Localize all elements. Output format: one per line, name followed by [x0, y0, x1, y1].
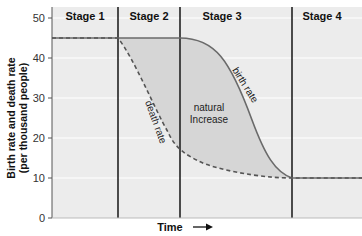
demographic-transition-chart: 50 40 30 20 10 0 Birth rate and death ra… — [0, 0, 362, 236]
y-axis-label-line1: Birth rate and death rate — [5, 57, 17, 179]
increase-label: Increase — [190, 114, 229, 125]
ytick-40: 40 — [33, 52, 45, 64]
y-axis-label: Birth rate and death rate (per thousand … — [5, 57, 29, 179]
ytick-0: 0 — [39, 212, 45, 224]
arrow-right-icon — [193, 224, 213, 231]
y-ticks — [48, 18, 52, 218]
ytick-10: 10 — [33, 172, 45, 184]
natural-label: natural — [194, 102, 225, 113]
stage-1-label: Stage 1 — [65, 10, 104, 22]
ytick-20: 20 — [33, 132, 45, 144]
x-axis-label: Time — [157, 221, 182, 233]
stage-2-label: Stage 2 — [129, 10, 168, 22]
stage-4-label: Stage 4 — [302, 10, 342, 22]
stage-3-label: Stage 3 — [202, 10, 241, 22]
y-axis-label-line2: (per thousand people) — [17, 63, 29, 173]
ytick-30: 30 — [33, 92, 45, 104]
ytick-50: 50 — [33, 12, 45, 24]
